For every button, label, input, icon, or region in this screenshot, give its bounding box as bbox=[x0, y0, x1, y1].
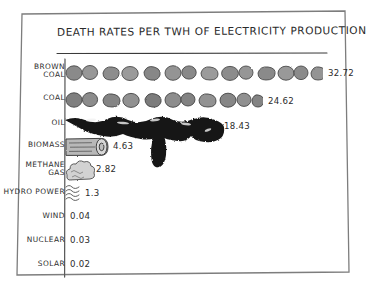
row-label: Methane Gas bbox=[0, 161, 65, 178]
row-value: 18.43 bbox=[224, 121, 250, 131]
chart-row: Methane Gas 2.82 bbox=[0, 158, 367, 184]
row-label: Hydro Power bbox=[0, 188, 65, 196]
row-label-line1: Nuclear bbox=[0, 236, 65, 244]
page-title: Death Rates per TWh of Electricity Produ… bbox=[57, 24, 327, 38]
row-label: Solar bbox=[0, 260, 65, 268]
row-value: 32.72 bbox=[328, 68, 354, 78]
row-label: Brown Coal bbox=[0, 63, 65, 80]
chart-row: Nuclear 0.03 bbox=[0, 230, 367, 256]
row-label-line1: Oil bbox=[0, 119, 65, 127]
bar-coal bbox=[65, 87, 263, 113]
row-value: 0.02 bbox=[70, 259, 90, 269]
row-value: 1.3 bbox=[85, 188, 100, 198]
chart-row: Coal 24.62 bbox=[0, 87, 367, 113]
chart-row: Wind 0.04 bbox=[0, 206, 367, 232]
bar-brown-coal bbox=[65, 60, 323, 86]
bar-biomass bbox=[65, 135, 110, 159]
row-label: Coal bbox=[0, 94, 65, 102]
chart-row: Brown Coal 32.72 bbox=[0, 60, 367, 86]
chart-row: Solar 0.02 bbox=[0, 254, 367, 280]
bar-hydro-power bbox=[65, 183, 81, 205]
row-value: 2.82 bbox=[96, 164, 116, 174]
row-value: 24.62 bbox=[268, 96, 294, 106]
bar-methane-gas bbox=[65, 159, 95, 183]
row-label-line1: Solar bbox=[0, 260, 65, 268]
row-label-line2: Gas bbox=[0, 169, 65, 177]
row-label-line1: Coal bbox=[0, 94, 65, 102]
row-label-line1: Hydro Power bbox=[0, 188, 65, 196]
row-value: 0.03 bbox=[70, 235, 90, 245]
row-label: Biomass bbox=[0, 141, 65, 149]
row-label: Oil bbox=[0, 119, 65, 127]
row-label-line1: Biomass bbox=[0, 141, 65, 149]
row-value: 4.63 bbox=[113, 141, 133, 151]
row-label: Wind bbox=[0, 212, 65, 220]
row-label-line1: Wind bbox=[0, 212, 65, 220]
chart-row: Hydro Power 1.3 bbox=[0, 182, 367, 208]
row-label: Nuclear bbox=[0, 236, 65, 244]
row-label-line2: Coal bbox=[0, 71, 65, 79]
row-value: 0.04 bbox=[70, 211, 90, 221]
